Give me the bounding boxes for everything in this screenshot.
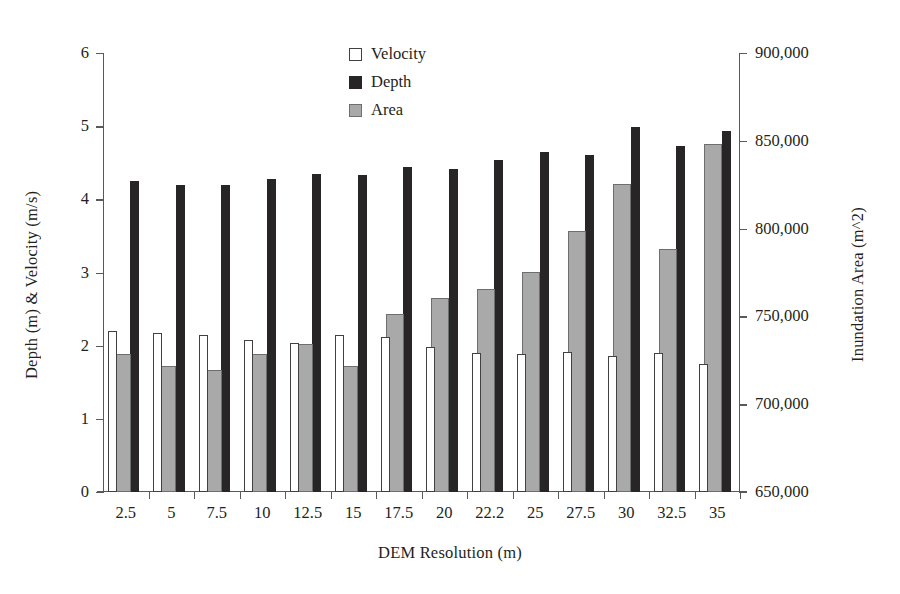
x-axis-tick-label: 25 — [527, 503, 544, 523]
x-axis-tick — [422, 491, 423, 499]
y-axis-right-tick — [739, 53, 747, 54]
x-axis-tick-label: 2.5 — [115, 503, 136, 523]
bar-depth — [403, 167, 412, 492]
x-axis-tick-label: 27.5 — [566, 503, 595, 523]
y-axis-right-tick-label: 750,000 — [755, 306, 847, 326]
bar-depth — [130, 181, 139, 492]
bar-velocity — [153, 333, 162, 492]
bar-group — [695, 53, 741, 492]
x-axis-tick-label: 30 — [618, 503, 635, 523]
bar-group — [649, 53, 695, 492]
bar-velocity — [381, 337, 390, 492]
x-axis-tick — [331, 491, 332, 499]
x-axis-tick — [513, 491, 514, 499]
x-axis-tick-label: 5 — [167, 503, 175, 523]
bar-velocity — [608, 356, 617, 492]
bar-velocity — [699, 364, 708, 492]
bar-group — [103, 53, 149, 492]
legend-label: Velocity — [371, 44, 426, 64]
x-axis-tick-label: 7.5 — [206, 503, 227, 523]
legend-label: Area — [371, 100, 403, 120]
x-axis-tick-label: 10 — [254, 503, 271, 523]
x-axis-title: DEM Resolution (m) — [0, 543, 900, 563]
y-axis-left-tick-label: 3 — [63, 263, 89, 283]
y-axis-left-title: Depth (m) & Velocity (m/s) — [22, 135, 42, 435]
bar-velocity — [335, 335, 344, 492]
bar-velocity — [517, 354, 526, 492]
open-square-swatch-icon — [349, 48, 362, 61]
x-axis-tick — [558, 491, 559, 499]
x-axis-tick-label: 20 — [436, 503, 453, 523]
bar-group — [149, 53, 195, 492]
y-axis-left-tick-label: 1 — [63, 409, 89, 429]
y-axis-right-tick-label: 650,000 — [755, 482, 847, 502]
y-axis-left-tick-label: 2 — [63, 336, 89, 356]
bar-group — [285, 53, 331, 492]
bar-velocity — [290, 343, 299, 492]
bar-group — [240, 53, 286, 492]
bar-velocity — [563, 352, 572, 492]
x-axis-tick-label: 32.5 — [657, 503, 686, 523]
x-axis-tick — [649, 491, 650, 499]
y-axis-right-title: Inundation Area (m^2) — [848, 135, 868, 435]
y-axis-right-tick — [739, 141, 747, 142]
bar-group — [467, 53, 513, 492]
legend-item-depth: Depth — [349, 68, 426, 96]
x-axis-tick — [149, 491, 150, 499]
bar-depth — [676, 146, 685, 492]
y-axis-left-tick-label: 5 — [63, 116, 89, 136]
legend-item-velocity: Velocity — [349, 40, 426, 68]
bar-velocity — [426, 347, 435, 492]
filled-gray-square-swatch-icon — [349, 104, 362, 117]
y-axis-left-tick — [96, 492, 104, 493]
bar-group — [558, 53, 604, 492]
y-axis-right-tick — [739, 404, 747, 405]
bar-velocity — [654, 353, 663, 492]
y-axis-right-tick-label: 900,000 — [755, 43, 847, 63]
filled-black-square-swatch-icon — [349, 76, 362, 89]
y-axis-right-tick-label: 850,000 — [755, 131, 847, 151]
x-axis-tick — [467, 491, 468, 499]
legend-item-area: Area — [349, 96, 426, 124]
bar-group — [604, 53, 650, 492]
x-axis-tick — [285, 491, 286, 499]
bar-group — [422, 53, 468, 492]
bar-velocity — [199, 335, 208, 492]
y-axis-right-tick — [739, 316, 747, 317]
bar-velocity — [108, 331, 117, 492]
bar-group — [513, 53, 559, 492]
y-axis-left-tick-label: 6 — [63, 43, 89, 63]
bar-depth — [585, 155, 594, 492]
y-axis-right-tick-label: 800,000 — [755, 219, 847, 239]
bar-group — [194, 53, 240, 492]
x-axis-tick — [194, 491, 195, 499]
bar-depth — [221, 185, 230, 492]
bar-chart: Depth (m) & Velocity (m/s) Inundation Ar… — [0, 0, 900, 594]
x-axis-tick-label: 35 — [709, 503, 726, 523]
y-axis-left-tick-label: 0 — [63, 482, 89, 502]
y-axis-right-tick — [739, 229, 747, 230]
x-axis-tick-label: 17.5 — [384, 503, 413, 523]
x-axis-tick-label: 22.2 — [475, 503, 504, 523]
x-axis-tick-label: 15 — [345, 503, 362, 523]
x-axis-tick — [240, 491, 241, 499]
y-axis-right-tick-label: 700,000 — [755, 394, 847, 414]
x-axis-tick — [604, 491, 605, 499]
bar-depth — [176, 185, 185, 492]
x-axis-tick — [376, 491, 377, 499]
bar-depth — [540, 152, 549, 492]
legend-label: Depth — [371, 72, 411, 92]
bar-depth — [267, 179, 276, 492]
bar-depth — [494, 160, 503, 492]
bar-velocity — [472, 353, 481, 492]
bar-depth — [312, 174, 321, 492]
bar-depth — [631, 127, 640, 492]
legend: Velocity Depth Area — [349, 40, 426, 124]
x-axis-tick — [695, 491, 696, 499]
bar-depth — [722, 131, 731, 492]
bar-depth — [449, 169, 458, 492]
bar-velocity — [244, 340, 253, 492]
bar-depth — [358, 175, 367, 492]
x-axis-tick-label: 12.5 — [293, 503, 322, 523]
x-axis-tick — [740, 491, 741, 499]
